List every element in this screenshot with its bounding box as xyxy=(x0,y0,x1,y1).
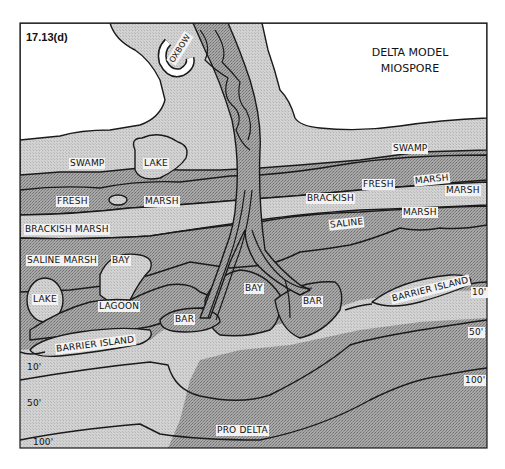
label-pro-delta: PRO DELTA xyxy=(216,425,269,436)
label-saline-marsh: SALINE MARSH xyxy=(26,255,98,266)
label-marsh-left: MARSH xyxy=(144,196,180,207)
depth-left-50: 50' xyxy=(26,398,43,409)
figure-id: 17.13(d) xyxy=(26,31,68,43)
label-fresh-left: FRESH xyxy=(56,196,89,207)
label-swamp-left: SWAMP xyxy=(69,158,105,169)
label-marsh-right-2: MARSH xyxy=(445,185,481,196)
label-bay-center: BAY xyxy=(244,283,264,294)
label-brackish-right: BRACKISH xyxy=(306,193,355,204)
depth-left-10: 10' xyxy=(26,362,43,373)
label-lake-top: LAKE xyxy=(143,158,169,169)
diagram-title-line2: MIOSPORE xyxy=(340,61,480,77)
depth-right-100: 100' xyxy=(464,375,486,386)
diagram-title-line1: DELTA MODEL xyxy=(340,45,480,61)
label-bar-right: BAR xyxy=(302,296,323,307)
label-marsh-right-3: MARSH xyxy=(402,207,438,218)
depth-right-10: 10' xyxy=(471,287,488,298)
label-bar-left: BAR xyxy=(174,314,195,325)
small-lake xyxy=(109,195,127,205)
label-lake-left: LAKE xyxy=(32,294,58,305)
label-brackish-marsh: BRACKISH MARSH xyxy=(24,224,110,235)
label-swamp-right: SWAMP xyxy=(392,143,428,154)
depth-left-100: 100' xyxy=(32,437,54,448)
depth-right-50: 50' xyxy=(468,327,485,338)
label-fresh-right: FRESH xyxy=(362,179,395,190)
label-bay-left: BAY xyxy=(111,255,131,266)
label-lagoon: LAGOON xyxy=(98,301,140,312)
